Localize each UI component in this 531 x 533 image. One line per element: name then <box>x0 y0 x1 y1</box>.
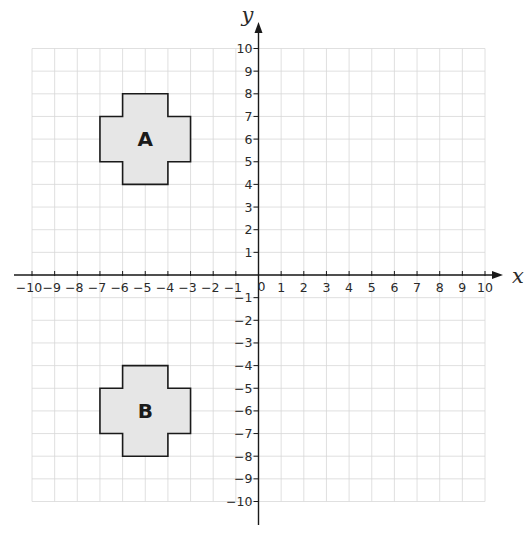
x-tick-label: 2 <box>300 280 308 295</box>
y-tick-label: 7 <box>245 109 253 124</box>
y-tick-label: −5 <box>234 381 252 396</box>
x-tick-label: −3 <box>178 280 196 295</box>
y-tick-label: 4 <box>245 177 253 192</box>
x-axis-label: x <box>512 264 524 288</box>
x-tick-label: −7 <box>88 280 106 295</box>
y-tick-label: −2 <box>234 313 252 328</box>
x-tick-label: −9 <box>42 280 60 295</box>
x-tick-label: 1 <box>277 280 285 295</box>
y-tick-label: 1 <box>245 245 253 260</box>
x-tick-label: −4 <box>156 280 174 295</box>
y-tick-label: −3 <box>234 335 252 350</box>
x-tick-label: 3 <box>322 280 330 295</box>
y-axis-label: y <box>241 3 255 27</box>
y-tick-label: 9 <box>245 64 253 79</box>
y-tick-label: −4 <box>234 358 252 373</box>
x-tick-label: −10 <box>16 280 42 295</box>
x-tick-label: 4 <box>345 280 353 295</box>
y-tick-label: −1 <box>234 290 252 305</box>
y-tick-label: −7 <box>234 426 252 441</box>
y-tick-label: 5 <box>245 154 253 169</box>
origin-label: 0 <box>258 279 266 294</box>
x-tick-label: 9 <box>458 280 466 295</box>
x-tick-label: −8 <box>65 280 83 295</box>
x-tick-label: 6 <box>390 280 398 295</box>
x-axis-arrow-icon <box>492 271 503 279</box>
axes <box>14 22 503 525</box>
x-tick-label: −6 <box>110 280 128 295</box>
x-tick-label: 7 <box>413 280 421 295</box>
y-axis-arrow-icon <box>255 22 263 33</box>
y-tick-label: 8 <box>245 86 253 101</box>
y-tick-label: −9 <box>234 471 252 486</box>
x-tick-label: 8 <box>436 280 444 295</box>
shape-label-b: B <box>138 399 153 423</box>
y-tick-label: 2 <box>245 222 253 237</box>
x-tick-label: −5 <box>133 280 151 295</box>
y-tick-label: 10 <box>237 41 253 56</box>
shape-label-a: A <box>138 127 154 151</box>
y-tick-label: 3 <box>245 200 253 215</box>
x-tick-label: 5 <box>368 280 376 295</box>
x-tick-label: −2 <box>201 280 219 295</box>
y-tick-label: −10 <box>226 494 252 509</box>
coordinate-grid: AB −10−9−8−7−6−5−4−3−2−112345678910−10−9… <box>0 0 531 533</box>
y-tick-label: −6 <box>234 403 252 418</box>
y-tick-label: 6 <box>245 132 253 147</box>
x-tick-label: 10 <box>477 280 493 295</box>
y-tick-label: −8 <box>234 449 252 464</box>
